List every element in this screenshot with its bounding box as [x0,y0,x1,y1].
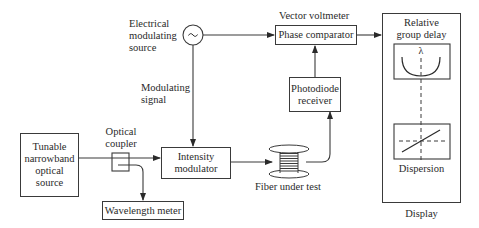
group-delay-label-1: Relative [382,17,461,29]
modulating-signal-label-1: Modulating [141,82,190,94]
optical-coupler-box [112,153,129,171]
modulating-signal-label: Modulating signal [141,82,190,106]
sine-wave-icon [183,25,203,45]
electrical-source-label-3: source [129,42,177,54]
lambda-symbol: λ [416,45,426,57]
tunable-source-label-2: narrowband [24,153,74,165]
modulating-signal-label-2: signal [141,94,190,106]
electrical-source-label-2: modulating [129,30,177,42]
coupler-label-1: Optical [103,126,139,138]
fiber-to-photodiode-line [306,112,330,162]
photodiode-label-2: receiver [298,95,332,107]
tunable-source-box: Tunable narrowband optical source [20,133,79,197]
fiber-spool-icon [269,145,309,178]
group-delay-label-2: group delay [382,29,461,41]
tunable-source-label-3: optical [35,165,64,177]
electrical-source-label: Electrical modulating source [129,18,177,54]
intensity-modulator-box: Intensity modulator [161,147,231,179]
intensity-modulator-label-2: modulator [174,163,217,175]
intensity-modulator-label-1: Intensity [178,151,215,163]
tunable-source-label-1: Tunable [32,141,66,153]
phase-comparator-label: Phase comparator [279,29,354,41]
coupler-label-2: coupler [103,138,139,150]
fiber-under-test-label: Fiber under test [255,181,321,193]
optical-coupler-label: Optical coupler [103,126,139,150]
coupler-to-wavelength-meter-line [118,165,143,200]
wavelength-meter-box: Wavelength meter [102,201,184,220]
photodiode-receiver-box: Photodiode receiver [289,77,341,112]
photodiode-label-1: Photodiode [291,83,339,95]
tunable-source-label-4: source [36,177,63,189]
display-label: Display [382,208,461,220]
dispersion-label: Dispersion [382,163,461,175]
relative-group-delay-label: Relative group delay [382,17,461,41]
electrical-source-label-1: Electrical [129,18,177,30]
wavelength-meter-label: Wavelength meter [105,205,181,217]
vector-voltmeter-label: Vector voltmeter [279,10,349,22]
phase-comparator-box: Phase comparator [275,25,357,45]
